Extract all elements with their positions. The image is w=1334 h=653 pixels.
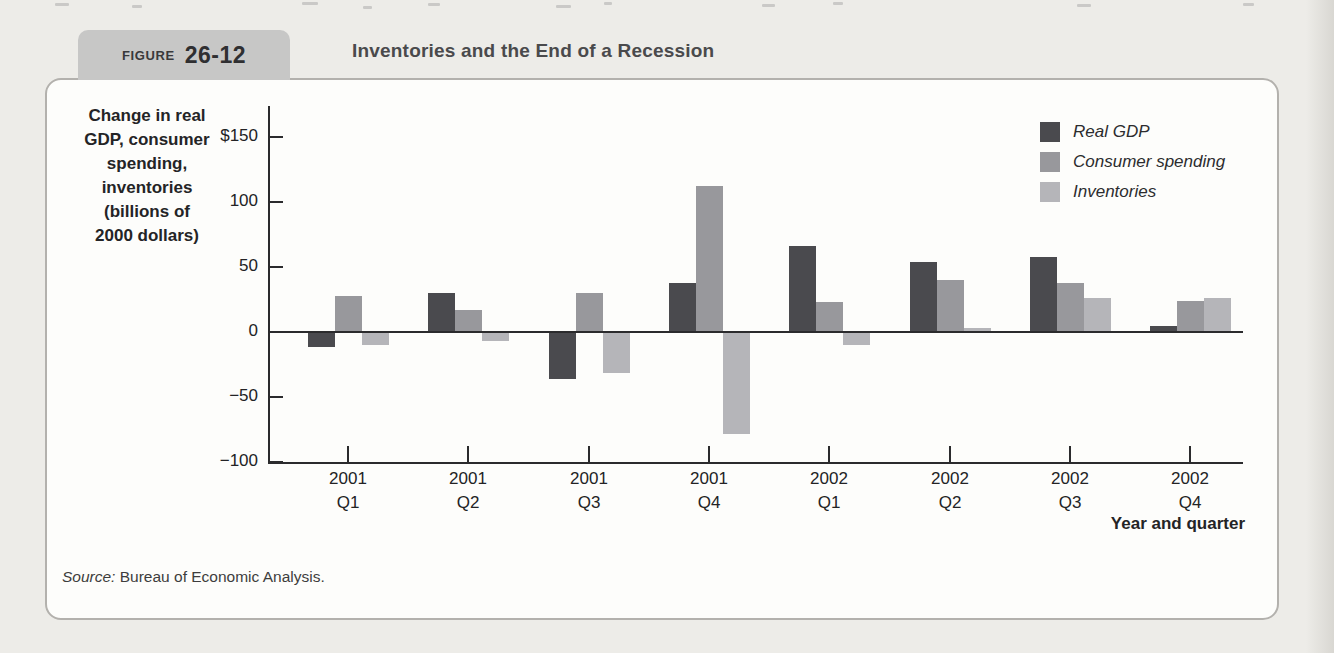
- x-tick-label: 2001 Q3: [544, 467, 634, 515]
- x-tick-label: 2002 Q3: [1025, 467, 1115, 515]
- bar-consumer-spending-2002-q2: [937, 280, 964, 332]
- source-prefix: Source:: [62, 568, 115, 585]
- x-axis-tick: [1189, 446, 1191, 462]
- x-tick-label: 2001 Q1: [303, 467, 393, 515]
- bar-real-gdp-2002-q1: [789, 246, 816, 332]
- figure-label: FIGURE: [122, 48, 175, 63]
- y-axis-tick: [270, 266, 283, 268]
- bar-consumer-spending-2001-q2: [455, 310, 482, 332]
- legend-label: Inventories: [1073, 182, 1156, 202]
- y-axis-line: [268, 106, 270, 464]
- bar-real-gdp-2002-q3: [1030, 257, 1057, 332]
- x-axis-title: Year and quarter: [1023, 514, 1245, 534]
- bar-inventories-2001-q3: [603, 333, 630, 373]
- y-axis-tick: [270, 461, 283, 463]
- page-background: FIGURE 26-12 Inventories and the End of …: [0, 0, 1334, 653]
- figure-tab: FIGURE 26-12: [78, 30, 290, 80]
- y-axis-tick: [270, 396, 283, 398]
- x-tick-label: 2001 Q2: [423, 467, 513, 515]
- legend-swatch-real-gdp: [1040, 122, 1060, 142]
- legend-swatch-consumer-spending: [1040, 152, 1060, 172]
- x-tick-label: 2002 Q2: [905, 467, 995, 515]
- bar-inventories-2002-q1: [843, 333, 870, 345]
- bar-inventories-2001-q1: [362, 333, 389, 345]
- legend-item: Consumer spending: [1040, 152, 1225, 172]
- bar-consumer-spending-2001-q3: [576, 293, 603, 332]
- x-axis-tick: [1069, 446, 1071, 462]
- y-axis-tick: [270, 136, 283, 138]
- legend-swatch-inventories: [1040, 182, 1060, 202]
- zero-line: [268, 331, 1243, 333]
- bar-real-gdp-2001-q2: [428, 293, 455, 332]
- x-axis-tick: [828, 446, 830, 462]
- bar-consumer-spending-2002-q1: [816, 302, 843, 332]
- y-tick-label: −100: [196, 451, 258, 471]
- y-tick-label: 0: [196, 321, 258, 341]
- bar-inventories-2001-q4: [723, 333, 750, 434]
- x-tick-label: 2002 Q4: [1145, 467, 1235, 515]
- legend: Real GDP Consumer spending Inventories: [1040, 122, 1225, 212]
- legend-item: Inventories: [1040, 182, 1225, 202]
- bar-consumer-spending-2002-q3: [1057, 283, 1084, 332]
- bar-real-gdp-2001-q1: [308, 333, 335, 347]
- y-tick-label: 100: [196, 191, 258, 211]
- legend-item: Real GDP: [1040, 122, 1225, 142]
- x-tick-label: 2001 Q4: [664, 467, 754, 515]
- figure-title: Inventories and the End of a Recession: [352, 40, 714, 62]
- y-tick-label: $150: [196, 126, 258, 146]
- x-axis-tick: [708, 446, 710, 462]
- bar-consumer-spending-2001-q4: [696, 186, 723, 332]
- bar-consumer-spending-2001-q1: [335, 296, 362, 332]
- x-axis-tick: [347, 446, 349, 462]
- source-line: Source: Bureau of Economic Analysis.: [62, 568, 325, 586]
- legend-label: Consumer spending: [1073, 152, 1225, 172]
- figure-number: 26-12: [185, 42, 246, 69]
- bar-real-gdp-2001-q4: [669, 283, 696, 332]
- bar-inventories-2002-q4: [1204, 298, 1231, 332]
- x-axis-tick: [949, 446, 951, 462]
- x-axis-line: [268, 462, 1243, 464]
- bar-real-gdp-2001-q3: [549, 333, 576, 379]
- source-text: Bureau of Economic Analysis.: [115, 568, 324, 585]
- y-tick-label: 50: [196, 256, 258, 276]
- x-tick-label: 2002 Q1: [784, 467, 874, 515]
- x-axis-tick: [588, 446, 590, 462]
- bar-inventories-2001-q2: [482, 333, 509, 341]
- y-axis-tick: [270, 201, 283, 203]
- chart-area: $150100500−50−1002001 Q12001 Q22001 Q320…: [0, 0, 1334, 653]
- legend-label: Real GDP: [1073, 122, 1150, 142]
- bar-consumer-spending-2002-q4: [1177, 301, 1204, 332]
- bar-real-gdp-2002-q2: [910, 262, 937, 332]
- y-tick-label: −50: [196, 386, 258, 406]
- x-axis-tick: [467, 446, 469, 462]
- bar-inventories-2002-q3: [1084, 298, 1111, 332]
